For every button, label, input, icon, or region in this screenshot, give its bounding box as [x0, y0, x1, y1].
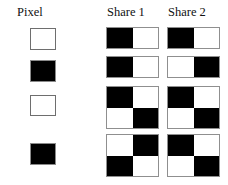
subpixel: [133, 87, 159, 108]
share2-pattern-row4: [167, 134, 220, 177]
share2-pattern-row1: [167, 27, 220, 49]
subpixel: [168, 156, 194, 177]
share1-pattern-row3: [106, 86, 159, 129]
pixel-swatch-row1: [30, 28, 56, 50]
share2-pattern-row3: [167, 86, 220, 129]
subpixel: [107, 156, 133, 177]
column-header-pixel: Pixel: [17, 5, 43, 19]
subpixel: [194, 87, 220, 108]
column-header-share2: Share 2: [168, 5, 206, 19]
subpixel: [107, 135, 133, 156]
subpixel: [133, 135, 159, 156]
subpixel: [107, 28, 133, 48]
column-header-share1: Share 1: [107, 5, 145, 19]
subpixel: [168, 28, 194, 48]
subpixel: [133, 108, 159, 129]
subpixel: [194, 57, 220, 77]
share2-pattern-row2: [167, 56, 220, 78]
pixel-swatch-row2: [30, 60, 56, 82]
subpixel: [133, 156, 159, 177]
subpixel: [194, 135, 220, 156]
subpixel: [133, 28, 159, 48]
subpixel: [107, 87, 133, 108]
subpixel: [194, 108, 220, 129]
subpixel: [168, 135, 194, 156]
subpixel: [194, 156, 220, 177]
share1-pattern-row2: [106, 56, 159, 78]
visual-cryptography-figure: Pixel Share 1 Share 2: [0, 0, 228, 185]
share1-pattern-row1: [106, 27, 159, 49]
pixel-swatch-row4: [30, 143, 56, 165]
subpixel: [107, 57, 133, 77]
subpixel: [168, 57, 194, 77]
subpixel: [133, 57, 159, 77]
subpixel: [194, 28, 220, 48]
subpixel: [168, 108, 194, 129]
pixel-swatch-row3: [30, 95, 56, 116]
subpixel: [107, 108, 133, 129]
subpixel: [168, 87, 194, 108]
share1-pattern-row4: [106, 134, 159, 177]
